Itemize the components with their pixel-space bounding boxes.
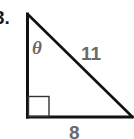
right-angle-marker	[29, 97, 50, 117]
triangle	[28, 14, 133, 117]
angle-theta-label: θ	[32, 38, 42, 57]
hypotenuse-length-label: 11	[81, 44, 101, 63]
base-length-label: 8	[69, 123, 80, 139]
right-triangle-figure	[0, 0, 134, 139]
hypotenuse	[28, 15, 133, 118]
